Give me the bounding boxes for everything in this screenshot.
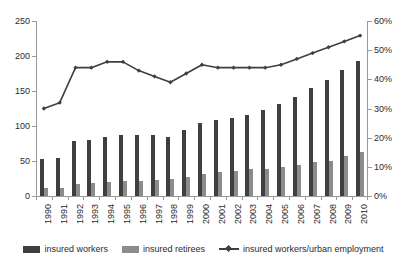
x-label-cell: 2005 xyxy=(273,199,289,233)
ratio-line-marker xyxy=(89,65,93,69)
ratio-line-marker xyxy=(279,63,283,67)
x-label-cell: 2000 xyxy=(194,199,210,233)
x-label-cell: 2008 xyxy=(321,199,337,233)
x-label-cell: 1990 xyxy=(36,199,52,233)
right-tick-mark xyxy=(368,109,372,110)
ratio-line-marker xyxy=(295,57,299,61)
ratio-line-marker xyxy=(105,60,109,64)
ratio-line-marker xyxy=(216,65,220,69)
right-tick-mark xyxy=(368,167,372,168)
legend-label: insured retirees xyxy=(143,244,205,254)
right-tick-label: 40% xyxy=(374,75,392,84)
line-diamond-marker-icon xyxy=(219,245,239,253)
chart-figure: 050100150200250 0%10%20%30%40%50%60% 199… xyxy=(0,0,407,267)
right-tick-mark xyxy=(368,50,372,51)
right-tick-mark xyxy=(368,196,372,197)
ratio-line-marker xyxy=(42,106,46,110)
x-label-cell: 1999 xyxy=(178,199,194,233)
ratio-line-marker xyxy=(263,65,267,69)
left-tick-label: 250 xyxy=(15,17,30,26)
legend-label: insured workers xyxy=(44,244,108,254)
left-tick-label: 0 xyxy=(25,192,30,201)
square-light-swatch-icon xyxy=(122,246,139,253)
x-label-cell: 2010 xyxy=(352,199,368,233)
x-label-cell: 1991 xyxy=(52,199,68,233)
x-tick-label: 2010 xyxy=(360,204,369,224)
ratio-line-marker xyxy=(247,65,251,69)
x-label-cell: 1993 xyxy=(83,199,99,233)
left-tick-label: 200 xyxy=(15,52,30,61)
x-label-cell: 1996 xyxy=(131,199,147,233)
ratio-line-marker xyxy=(152,74,156,78)
x-label-cell: 2006 xyxy=(289,199,305,233)
right-tick-label: 50% xyxy=(374,46,392,55)
ratio-line-marker xyxy=(310,51,314,55)
right-tick-label: 30% xyxy=(374,105,392,114)
chart-legend: insured workers insured retirees insured… xyxy=(0,240,407,258)
x-label-cell: 2009 xyxy=(336,199,352,233)
right-tick-label: 20% xyxy=(374,134,392,143)
legend-item-insured-workers: insured workers xyxy=(23,244,108,254)
x-label-cell: 1992 xyxy=(68,199,84,233)
legend-item-insured-workers-urban-employment: insured workers/urban employment xyxy=(219,244,384,254)
right-tick-mark xyxy=(368,21,372,22)
x-label-cell: 1995 xyxy=(115,199,131,233)
legend-item-insured-retirees: insured retirees xyxy=(122,244,205,254)
x-label-cell: 2007 xyxy=(305,199,321,233)
x-axis-labels: 1990199119921993199419951996199719981999… xyxy=(36,199,368,233)
right-tick-label: 60% xyxy=(374,17,392,26)
left-tick-label: 100 xyxy=(15,122,30,131)
ratio-line-series xyxy=(36,21,368,196)
left-tick-label: 150 xyxy=(15,87,30,96)
x-label-cell: 1998 xyxy=(163,199,179,233)
right-tick-mark xyxy=(368,79,372,80)
square-dark-swatch-icon xyxy=(23,246,40,253)
right-tick-label: 0% xyxy=(374,192,387,201)
left-tick-label: 50 xyxy=(20,157,30,166)
legend-label: insured workers/urban employment xyxy=(243,244,384,254)
x-label-cell: 2003 xyxy=(242,199,258,233)
x-label-cell: 2004 xyxy=(257,199,273,233)
ratio-line-marker xyxy=(358,33,362,37)
x-label-cell: 2001 xyxy=(210,199,226,233)
ratio-line-marker xyxy=(326,45,330,49)
ratio-line-marker xyxy=(342,39,346,43)
ratio-line-path xyxy=(44,36,360,109)
x-label-cell: 2002 xyxy=(226,199,242,233)
ratio-line-marker xyxy=(231,65,235,69)
x-label-cell: 1997 xyxy=(147,199,163,233)
right-tick-mark xyxy=(368,138,372,139)
right-tick-label: 10% xyxy=(374,163,392,172)
x-label-cell: 1994 xyxy=(99,199,115,233)
